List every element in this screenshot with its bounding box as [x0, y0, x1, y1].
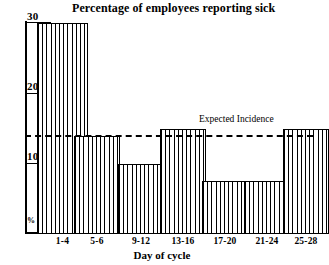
x-axis-title: Day of cycle — [0, 249, 324, 261]
x-tick-label-4: 13-16 — [160, 236, 206, 246]
x-tick-label-5: 17-20 — [202, 236, 248, 246]
expected-incidence-line — [25, 135, 313, 137]
bar-5-8 — [74, 136, 120, 234]
x-tick-label-7: 25-28 — [283, 236, 329, 246]
bar-9-12 — [118, 164, 164, 234]
bars-layer — [0, 0, 324, 234]
expected-incidence-label: Expected Incidence — [199, 114, 274, 124]
bar-25-28 — [283, 129, 329, 235]
x-tick-label-2: 5-6 — [74, 236, 120, 246]
bar-17-20 — [202, 181, 248, 234]
x-tick-label-3: 9-12 — [118, 236, 164, 246]
bar-13-16 — [160, 129, 206, 235]
